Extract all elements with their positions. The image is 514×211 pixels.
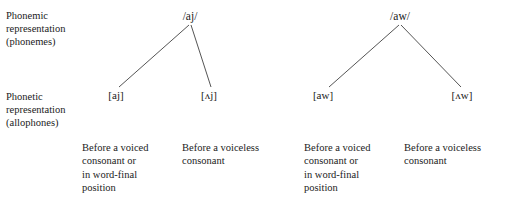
phonemic-representation-label: Phonemic representation (phonemes) (6, 9, 96, 49)
phoneme-node-aw: /aw/ (370, 10, 430, 23)
allophone-tree-diagram: Phonemic representation (phonemes) Phone… (0, 0, 514, 211)
phoneme-node-aj: /aj/ (160, 10, 220, 23)
environment-description-aw-voiced: Before a voiced consonant or in word-fin… (304, 141, 396, 195)
environment-description-aj-voiceless: Before a voiceless consonant (182, 141, 278, 168)
branch-line-aj-left (119, 25, 189, 87)
allophone-node-turned-v-j: [ʌj] (186, 89, 232, 102)
allophone-node-aj: [aj] (93, 89, 139, 102)
phonetic-representation-label: Phonetic representation (allophones) (6, 90, 96, 130)
environment-description-aj-voiced: Before a voiced consonant or in word-fin… (82, 141, 174, 195)
branch-line-aj-right (191, 25, 211, 87)
environment-description-aw-voiceless: Before a voiceless consonant (404, 141, 500, 168)
branch-line-aw-right (401, 25, 461, 87)
allophone-node-aw: [aw] (300, 89, 346, 102)
branch-line-aw-left (329, 25, 399, 87)
allophone-node-turned-v-w: [ʌw] (439, 89, 485, 102)
